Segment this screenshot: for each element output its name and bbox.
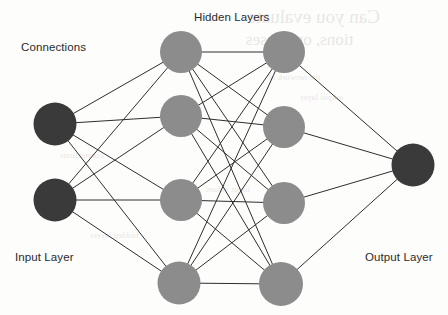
connection-line [55,124,181,200]
neural-network-diagram: Can you evaluatetions, or classesthe net… [0,0,448,315]
node-input [34,103,77,146]
node-input [34,179,77,222]
node-output [392,144,435,187]
node-hidden1 [160,179,202,221]
label-hidden-layers: Hidden Layers [194,11,269,23]
node-hidden2 [259,262,303,306]
label-input-layer: Input Layer [15,251,74,263]
connections-group [55,52,413,284]
nodes-group [34,31,435,306]
connection-line [55,200,179,283]
connection-line [281,165,413,284]
connection-line [179,52,284,283]
node-hidden2 [263,31,305,73]
connection-line [284,52,413,165]
label-output-layer: Output Layer [365,251,433,263]
label-connections: Connections [21,41,86,53]
node-hidden2 [263,182,305,224]
node-hidden1 [158,262,201,305]
node-hidden2 [263,106,305,148]
node-hidden1 [160,31,202,73]
node-hidden1 [160,95,202,137]
